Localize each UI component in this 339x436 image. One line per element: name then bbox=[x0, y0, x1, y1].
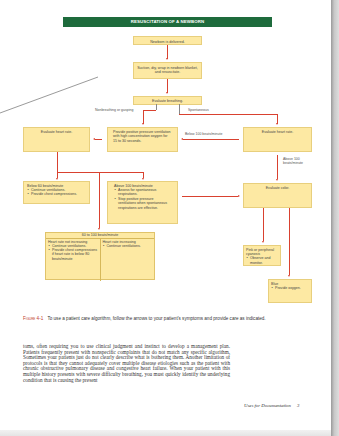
connector bbox=[143, 110, 144, 124]
connector bbox=[57, 172, 143, 173]
connector bbox=[167, 45, 168, 59]
running-title: Uses for Documentation bbox=[244, 403, 291, 408]
node-text: Suction, dry, wrap in newborn blanket, a… bbox=[137, 66, 198, 74]
bullet: Observe and monitor. bbox=[250, 256, 278, 265]
node-text: Evaluate heart rate. bbox=[41, 130, 72, 134]
column-increasing: Heart rate increasing Continue ventilati… bbox=[101, 239, 155, 281]
bullet: Continue ventilations. bbox=[107, 244, 153, 248]
node-above-100: Above 100 beats/minute Assess for sponta… bbox=[107, 181, 178, 224]
page-edge-shadow bbox=[331, 0, 339, 436]
node-text: Evaluate breathing. bbox=[152, 99, 183, 103]
arrow-down-icon bbox=[98, 228, 100, 230]
node-text: Evaluate color. bbox=[266, 186, 290, 190]
node-evaluate-color: Evaluate color. bbox=[243, 183, 312, 208]
node-evaluate-heart-rate-right: Evaluate heart rate. bbox=[243, 127, 312, 152]
node-60-to-100: 60 to 100 beats/minute Heart rate not in… bbox=[45, 232, 155, 280]
arrow-down-icon bbox=[166, 58, 168, 60]
bullet: Provide oxygen. bbox=[275, 286, 309, 290]
arrow-down-icon bbox=[262, 241, 264, 243]
node-pink-cyanosis: Pink or peripheral cyanosis Observe and … bbox=[243, 245, 281, 266]
figure-label: Figure 4-1 bbox=[23, 316, 43, 321]
connector bbox=[143, 110, 156, 111]
bullet: Stop positive pressure ventilations when… bbox=[118, 197, 171, 210]
caption-text: To use a patient care algorithm, follow … bbox=[47, 316, 265, 321]
figure-caption: Figure 4-1 To use a patient care algorit… bbox=[23, 316, 293, 322]
arrow-left-icon bbox=[181, 138, 183, 140]
connector bbox=[277, 155, 278, 179]
arrow-down-icon bbox=[288, 275, 290, 277]
arrow-down-icon bbox=[276, 179, 278, 181]
arrow-right-icon bbox=[238, 195, 240, 197]
connector bbox=[156, 104, 157, 110]
page-number: 3 bbox=[297, 403, 299, 408]
connector bbox=[289, 208, 290, 275]
connector bbox=[179, 104, 180, 114]
arrow-down-icon bbox=[276, 123, 278, 125]
arrow-down-icon bbox=[166, 92, 168, 94]
bullet: Provide chest compressions. bbox=[31, 192, 86, 196]
connector bbox=[179, 114, 277, 115]
edge-label-spontaneous: Spontaneous bbox=[188, 108, 209, 112]
connector bbox=[182, 196, 238, 197]
node-newborn-delivered: Newborn is delivered. bbox=[133, 36, 202, 45]
page-footer: Uses for Documentation 3 bbox=[244, 403, 300, 408]
body-paragraph: toms, often requiring you to use clinica… bbox=[23, 344, 230, 383]
book-page: RESUSCITATION OF A NEWBORN Newborn is de… bbox=[0, 0, 331, 430]
node-evaluate-breathing: Evaluate breathing. bbox=[133, 96, 202, 105]
arrow-down-icon bbox=[56, 178, 58, 180]
edge-label-nonbreathing: Nonbreathing or gasping bbox=[95, 108, 133, 112]
node-text: Newborn is delivered. bbox=[150, 40, 185, 44]
node-text: Provide positive pressure ventilation wi… bbox=[113, 130, 171, 143]
connector bbox=[183, 139, 239, 140]
connector bbox=[263, 208, 264, 241]
node-suction: Suction, dry, wrap in newborn blanket, a… bbox=[133, 62, 202, 79]
connector bbox=[99, 172, 100, 228]
arrow-down-icon bbox=[142, 123, 144, 125]
connector bbox=[167, 79, 168, 93]
node-blue: Blue Provide oxygen. bbox=[268, 279, 312, 303]
node-evaluate-heart-rate-left: Evaluate heart rate. bbox=[23, 127, 90, 152]
edge-label-below-100: Below 100 beats/minute bbox=[185, 132, 222, 136]
connector bbox=[95, 139, 102, 140]
page-bottom-edge bbox=[0, 430, 331, 436]
node-text: Evaluate heart rate. bbox=[262, 130, 293, 134]
node-below-60: Below 60 beats/minute Continue ventilati… bbox=[23, 181, 90, 204]
node-positive-pressure-ventilation: Provide positive pressure ventilation wi… bbox=[107, 127, 178, 152]
connector bbox=[57, 152, 58, 172]
bullet: Provide chest compressions if heart rate… bbox=[52, 248, 98, 261]
column-not-increasing: Heart rate not increasing Continue venti… bbox=[46, 239, 101, 281]
bullet: Assess for spontaneous respirations. bbox=[118, 188, 171, 197]
arrow-left-icon bbox=[93, 138, 95, 140]
figure-title: RESUSCITATION OF A NEWBORN bbox=[63, 17, 272, 27]
edge-label-above-100: Above 100 beats/minute bbox=[283, 157, 303, 165]
arrow-down-icon bbox=[142, 178, 144, 180]
